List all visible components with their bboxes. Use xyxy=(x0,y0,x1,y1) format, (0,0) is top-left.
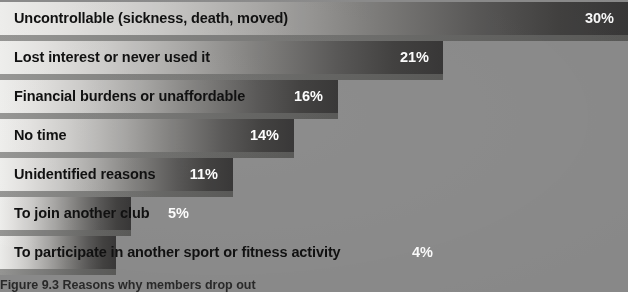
bar-value-label: 16% xyxy=(294,80,323,113)
bar-category-label: Lost interest or never used it xyxy=(14,41,210,74)
bar-row: Uncontrollable (sickness, death, moved) … xyxy=(0,2,628,41)
figure-caption: Figure 9.3 Reasons why members drop out xyxy=(0,278,628,292)
bar-value-label: 5% xyxy=(168,197,189,230)
bar-category-label: No time xyxy=(14,119,66,152)
bar-category-label: To participate in another sport or fitne… xyxy=(14,236,341,269)
bar-row: No time 14% xyxy=(0,119,628,158)
bar-row: Lost interest or never used it 21% xyxy=(0,41,628,80)
bar-category-label: Unidentified reasons xyxy=(14,158,155,191)
bar-row: To participate in another sport or fitne… xyxy=(0,236,628,275)
bar-value-label: 30% xyxy=(585,2,614,35)
bar-category-label: Uncontrollable (sickness, death, moved) xyxy=(14,2,288,35)
bar-value-label: 11% xyxy=(190,158,218,191)
bar-row: Financial burdens or unaffordable 16% xyxy=(0,80,628,119)
bar-row: To join another club 5% xyxy=(0,197,628,236)
bar-row: Unidentified reasons 11% xyxy=(0,158,628,197)
bar-shadow xyxy=(0,269,116,275)
bar-value-label: 21% xyxy=(400,41,429,74)
bar-value-label: 14% xyxy=(250,119,279,152)
bar-category-label: Financial burdens or unaffordable xyxy=(14,80,245,113)
bar-value-label: 4% xyxy=(412,236,433,269)
bar-chart-figure: Uncontrollable (sickness, death, moved) … xyxy=(0,0,628,292)
chart-plot-area: Uncontrollable (sickness, death, moved) … xyxy=(0,0,628,276)
bar-category-label: To join another club xyxy=(14,197,149,230)
